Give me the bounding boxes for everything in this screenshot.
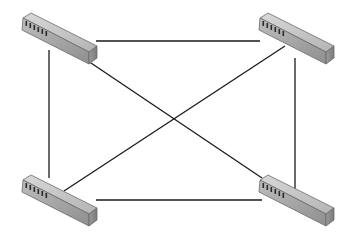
switch-bottom-right[interactable] xyxy=(259,175,334,226)
nodes-layer xyxy=(22,13,334,226)
network-diagram xyxy=(0,0,350,246)
diagram-canvas xyxy=(0,0,350,246)
network-switch-icon xyxy=(22,175,97,226)
network-switch-icon xyxy=(259,175,334,226)
switch-bottom-left[interactable] xyxy=(22,175,97,226)
network-switch-icon xyxy=(22,13,97,64)
links-layer xyxy=(49,41,295,200)
switch-top-left[interactable] xyxy=(22,13,97,64)
